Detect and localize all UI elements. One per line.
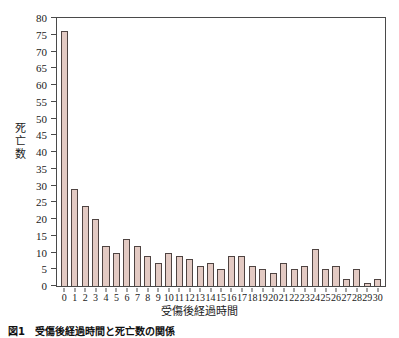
y-axis-tick: 55 — [0, 96, 56, 108]
bar-slot — [237, 18, 247, 286]
x-axis-tick-label: 23 — [300, 292, 310, 304]
bar-series — [57, 18, 385, 286]
x-axis-tick-label: 10 — [164, 292, 174, 304]
bar-slot — [153, 18, 163, 286]
bar-slot — [80, 18, 90, 286]
y-axis-tick: 30 — [0, 180, 56, 192]
y-axis-tick: 15 — [0, 230, 56, 242]
x-axis-tick-label: 9 — [156, 292, 161, 304]
y-axis-tick: 20 — [0, 213, 56, 225]
bar-slot — [247, 18, 257, 286]
y-axis-tick-label: 80 — [36, 12, 47, 24]
bar-slot — [331, 18, 341, 286]
y-axis-tick-label: 10 — [36, 247, 47, 259]
x-axis-tick-label: 29 — [362, 292, 372, 304]
bar-slot — [59, 18, 69, 286]
x-axis-tick-label: 3 — [93, 292, 98, 304]
y-axis-tick: 5 — [0, 263, 56, 275]
bar — [374, 279, 381, 286]
bar — [82, 206, 89, 286]
y-axis-tick-label: 75 — [36, 29, 47, 41]
y-axis-tick-label: 70 — [36, 46, 47, 58]
y-axis-tick: 25 — [0, 196, 56, 208]
x-axis-tick-label: 21 — [279, 292, 289, 304]
y-axis-tick-label: 25 — [36, 196, 47, 208]
bar-slot — [268, 18, 278, 286]
bar-slot — [299, 18, 309, 286]
y-axis: 05101520253035404550556065707580 — [0, 17, 56, 287]
x-axis-tick-label: 11 — [174, 292, 184, 304]
bar — [92, 219, 99, 286]
figure-caption: 図1 受傷後経過時間と死亡数の関係 — [8, 326, 399, 338]
x-axis-tick-label: 27 — [341, 292, 351, 304]
bar — [259, 269, 266, 286]
bar — [102, 246, 109, 286]
x-axis-tick-label: 15 — [216, 292, 226, 304]
bar-slot — [101, 18, 111, 286]
bar-slot — [122, 18, 132, 286]
y-axis-tick: 70 — [0, 46, 56, 58]
y-axis-tick-label: 20 — [36, 213, 47, 225]
bar-slot — [289, 18, 299, 286]
bar-slot — [310, 18, 320, 286]
bar-slot — [174, 18, 184, 286]
bar — [343, 279, 350, 286]
bar-slot — [195, 18, 205, 286]
figure-container: 死亡数 05101520253035404550556065707580 012… — [0, 0, 399, 338]
x-axis-tick-label: 17 — [237, 292, 247, 304]
x-axis-tick-label: 26 — [331, 292, 341, 304]
bar — [322, 269, 329, 286]
bar — [238, 256, 245, 286]
x-axis-tick-label: 6 — [124, 292, 129, 304]
x-axis-tick-label: 18 — [247, 292, 257, 304]
bar — [249, 266, 256, 286]
y-axis-tick: 45 — [0, 129, 56, 141]
bar — [353, 269, 360, 286]
x-axis-tick-label: 0 — [62, 292, 67, 304]
y-axis-tick-label: 35 — [36, 163, 47, 175]
y-axis-tick-label: 45 — [36, 129, 47, 141]
x-axis-tick-label: 1 — [72, 292, 77, 304]
bar — [155, 263, 162, 286]
x-axis-tick-label: 28 — [352, 292, 362, 304]
x-axis-tick-label: 25 — [321, 292, 331, 304]
bar — [71, 189, 78, 286]
x-axis-tick-label: 19 — [258, 292, 268, 304]
bar-slot — [373, 18, 383, 286]
bar-slot — [258, 18, 268, 286]
y-axis-tick: 65 — [0, 62, 56, 74]
bar-slot — [341, 18, 351, 286]
bar-slot — [205, 18, 215, 286]
bar — [144, 256, 151, 286]
y-axis-tick: 60 — [0, 79, 56, 91]
bar-slot — [132, 18, 142, 286]
y-axis-tick-label: 40 — [36, 146, 47, 158]
bar — [291, 269, 298, 286]
bar — [270, 273, 277, 286]
bar-slot — [226, 18, 236, 286]
x-axis-tick-label: 7 — [135, 292, 140, 304]
x-axis-tick-label: 8 — [145, 292, 150, 304]
bar-slot — [352, 18, 362, 286]
bar-slot — [320, 18, 330, 286]
x-axis-tick-label: 14 — [206, 292, 216, 304]
bar — [217, 269, 224, 286]
bar-slot — [362, 18, 372, 286]
y-axis-tick-label: 55 — [36, 96, 47, 108]
y-axis-tick: 40 — [0, 146, 56, 158]
bar — [123, 239, 130, 286]
y-axis-tick: 50 — [0, 113, 56, 125]
x-axis-tick-label: 20 — [268, 292, 278, 304]
y-axis-tick: 75 — [0, 29, 56, 41]
bar-slot — [279, 18, 289, 286]
bar — [134, 246, 141, 286]
bar-slot — [69, 18, 79, 286]
y-axis-tick-label: 50 — [36, 113, 47, 125]
x-axis-tick-label: 16 — [226, 292, 236, 304]
x-axis-tick-label: 24 — [310, 292, 320, 304]
bar-slot — [143, 18, 153, 286]
bar — [228, 256, 235, 286]
bar-slot — [184, 18, 194, 286]
bar — [280, 263, 287, 286]
x-axis-tick-label: 2 — [83, 292, 88, 304]
